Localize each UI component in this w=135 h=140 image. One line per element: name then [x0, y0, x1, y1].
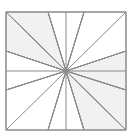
pinwheel-diagram: [0, 0, 135, 140]
figure-container: [0, 0, 135, 140]
